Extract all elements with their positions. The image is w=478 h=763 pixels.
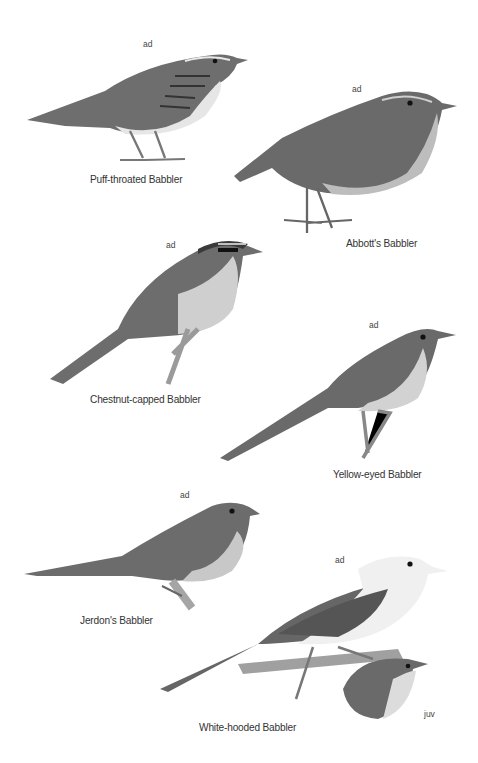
species-name: Puff-throated Babbler	[90, 173, 182, 185]
puff-throated-babbler-illustration	[25, 46, 255, 171]
abbotts-babbler-illustration	[232, 88, 457, 238]
yellow-eyed-babbler-illustration	[218, 323, 458, 468]
species-name: Abbott's Babbler	[346, 237, 417, 249]
white-hooded-babbler-illustration	[158, 549, 453, 724]
species-name: Chestnut-capped Babbler	[90, 393, 201, 405]
juvenile-label: juv	[424, 709, 435, 719]
species-name: Yellow-eyed Babbler	[333, 468, 422, 480]
species-name: White-hooded Babbler	[199, 721, 296, 733]
species-name: Jerdon's Babbler	[80, 614, 153, 626]
illustration-plate: ad Puff-throated Babbler ad Abbott's Bab…	[0, 0, 478, 763]
